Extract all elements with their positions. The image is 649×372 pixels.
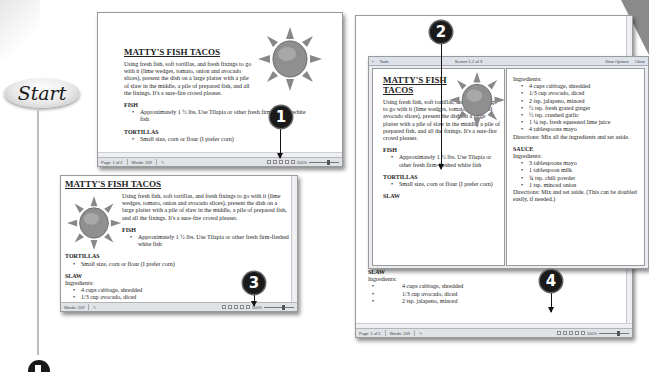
callout-badge-3: 3 bbox=[243, 272, 265, 294]
callout-badge-4: 4 bbox=[540, 270, 562, 292]
draft-slaw-item: 4 cups cabbage, shredded bbox=[372, 283, 608, 290]
proofing-icon[interactable]: ✎ bbox=[161, 160, 164, 165]
callout-pointer-4 bbox=[551, 292, 552, 312]
timeline-line bbox=[37, 110, 39, 355]
window-print-layout: MATTY'S FISH TACOS Using fresh fish, sof… bbox=[97, 12, 343, 167]
slaw-item: 2 tsp. jalapeno, minced bbox=[521, 98, 641, 105]
view-draft-button[interactable] bbox=[246, 305, 250, 309]
page-count[interactable]: Page: 1 of 2 bbox=[101, 160, 123, 165]
view-draft-button[interactable] bbox=[291, 160, 295, 164]
slaw-item: 4 tablespoons mayo bbox=[521, 126, 641, 133]
sauce-item: 1 tsp. minced onion bbox=[521, 182, 641, 189]
recipe-title: MATTY'S FISH TACOS bbox=[65, 179, 289, 189]
callout-pointer-2 bbox=[441, 43, 442, 169]
sauce-heading: SAUCE bbox=[513, 146, 641, 153]
view-web-layout-button[interactable] bbox=[234, 305, 238, 309]
reading-toolbar: ▪ Tools Screen 1-2 of 3 View Options Clo… bbox=[369, 57, 648, 66]
close-button[interactable]: Close bbox=[635, 59, 645, 64]
vertical-scrollbar[interactable] bbox=[291, 176, 297, 302]
view-print-layout-button[interactable] bbox=[222, 305, 226, 309]
callout-badge-1: 1 bbox=[270, 106, 292, 128]
draft-body: SLAW Ingredients: 4 cups cabbage, shredd… bbox=[368, 269, 608, 305]
draft-slaw-heading: SLAW bbox=[368, 269, 608, 276]
slaw-item: 4 cups cabbage, shredded bbox=[521, 83, 641, 90]
word-count[interactable]: Words: 209 bbox=[132, 160, 152, 165]
tortillas-heading: TORTILLAS bbox=[383, 174, 501, 181]
save-icon[interactable]: ▪ bbox=[372, 59, 373, 64]
tortillas-item: Small size, corn or flour (I prefer corn… bbox=[73, 261, 289, 268]
slaw-item: ½ tsp. fresh grated ginger bbox=[521, 105, 641, 112]
slaw-ingredients-label: Ingredients: bbox=[513, 76, 641, 83]
tortillas-item: Small size, corn or flour (I prefer corn… bbox=[132, 136, 314, 143]
tortillas-heading: TORTILLAS bbox=[124, 129, 314, 136]
sun-clipart-icon bbox=[67, 194, 121, 252]
zoom-slider[interactable] bbox=[599, 333, 629, 334]
word-count[interactable]: Words: 209 bbox=[390, 331, 410, 336]
view-web-layout-button[interactable] bbox=[279, 160, 283, 164]
view-options-button[interactable]: View Options bbox=[605, 59, 629, 64]
sauce-item: ¾ tsp. chili powder bbox=[521, 175, 641, 182]
tortillas-item: Small size, corn or flour (I prefer corn… bbox=[391, 181, 501, 188]
view-print-layout-button[interactable] bbox=[267, 160, 271, 164]
view-full-screen-reading-button[interactable] bbox=[228, 305, 232, 309]
view-outline-button[interactable] bbox=[575, 331, 579, 335]
window-full-screen-reading: ▪ Tools Screen 1-2 of 3 View Options Clo… bbox=[368, 56, 649, 269]
draft-slaw-item: 1/3 cup avocado, diced bbox=[372, 291, 608, 298]
callout-badge-2: 2 bbox=[430, 21, 452, 43]
proofing-icon[interactable]: ✎ bbox=[93, 305, 96, 310]
word-count[interactable]: Words: 209 bbox=[64, 305, 84, 310]
start-label: Start bbox=[18, 82, 67, 104]
view-print-layout-button[interactable] bbox=[557, 331, 561, 335]
fish-heading: FISH bbox=[122, 227, 289, 234]
zoom-level[interactable]: 100% bbox=[587, 331, 597, 336]
sauce-ingredients-label: Ingredients: bbox=[513, 153, 641, 160]
view-web-layout-button[interactable] bbox=[569, 331, 573, 335]
view-full-screen-reading-button[interactable] bbox=[563, 331, 567, 335]
sun-clipart-icon bbox=[449, 72, 505, 128]
sauce-directions: Directions: Mix and set aside. (This can… bbox=[513, 189, 641, 203]
fish-item: Approximately 1 ½ lbs. Use Tilapia or ot… bbox=[130, 234, 289, 248]
callout-pointer-3 bbox=[254, 294, 255, 306]
fish-item: Approximately 1 ½ lbs. Use Tilapia or ot… bbox=[391, 154, 501, 168]
view-outline-button[interactable] bbox=[240, 305, 244, 309]
slaw-item: 1/3 cup avocado, diced bbox=[521, 90, 641, 97]
step-bullet-icon bbox=[28, 360, 50, 372]
view-draft-button[interactable] bbox=[581, 331, 585, 335]
recipe-intro: Using fresh fish, soft tortillas, and fr… bbox=[124, 61, 254, 97]
zoom-slider[interactable] bbox=[309, 162, 339, 163]
sauce-item: 3 tablespoons mayo bbox=[521, 160, 641, 167]
fish-heading: FISH bbox=[383, 147, 501, 154]
corner-shading bbox=[0, 0, 40, 60]
slaw-heading: SLAW bbox=[383, 193, 501, 200]
sauce-item: 1 tablespoon milk bbox=[521, 167, 641, 174]
view-outline-button[interactable] bbox=[285, 160, 289, 164]
status-bar: Page: 1 of 2 Words: 209 ✎ 100% bbox=[356, 328, 632, 337]
status-bar: Page: 1 of 2 Words: 209 ✎ 100% bbox=[98, 157, 342, 166]
slaw-directions: Directions: Mix all the ingredients and … bbox=[513, 134, 641, 141]
zoom-level[interactable]: 100% bbox=[297, 160, 307, 165]
screen-navigator[interactable]: Screen 1-2 of 3 bbox=[455, 59, 482, 64]
status-bar: Words: 209 ✎ 100% bbox=[61, 302, 297, 311]
draft-ingredients-label: Ingredients: bbox=[368, 276, 608, 283]
recipe-intro: Using fresh fish, soft tortillas, and fr… bbox=[122, 193, 289, 222]
proofing-icon[interactable]: ✎ bbox=[419, 331, 422, 336]
window-web-layout: MATTY'S FISH TACOS Using fresh fish, sof… bbox=[60, 175, 298, 312]
callout-pointer-1 bbox=[280, 128, 281, 158]
zoom-slider[interactable] bbox=[264, 307, 294, 308]
page-count[interactable]: Page: 1 of 2 bbox=[359, 331, 381, 336]
view-full-screen-reading-button[interactable] bbox=[273, 160, 277, 164]
reading-page-right: Ingredients: 4 cups cabbage, shredded 1/… bbox=[506, 68, 645, 266]
slaw-item: 1 ¼ tsp. fresh squeezed lime juice bbox=[521, 119, 641, 126]
draft-slaw-item: 2 tsp. jalapeno, minced bbox=[372, 298, 608, 305]
slaw-item: ½ tsp. crushed garlic bbox=[521, 112, 641, 119]
start-badge: Start bbox=[4, 78, 80, 108]
sun-clipart-icon bbox=[258, 27, 322, 91]
tortillas-heading: TORTILLAS bbox=[65, 253, 289, 260]
tools-menu[interactable]: Tools bbox=[379, 59, 388, 64]
